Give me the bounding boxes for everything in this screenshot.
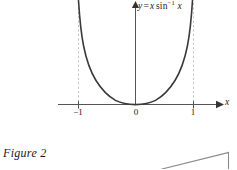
equation-function: sin — [154, 1, 167, 11]
equation-exponent: −1 — [168, 0, 175, 6]
figure-caption: Figure 2 — [3, 146, 47, 161]
tick-label-zero: 0 — [129, 107, 143, 117]
tick-label-one: 1 — [186, 107, 200, 117]
equation-equals: = — [142, 1, 150, 11]
figure-container: y=xsin−1 x −1 0 1 x Figure 2 — [0, 0, 237, 169]
plot-canvas — [0, 0, 237, 169]
tick-label-neg-one: −1 — [70, 107, 86, 117]
fragment-diagonal-line — [162, 153, 229, 170]
x-axis-label: x — [225, 97, 229, 107]
equation-label: y=xsin−1 x — [138, 1, 182, 11]
x-axis-arrowhead — [216, 101, 224, 108]
equation-argument: x — [178, 1, 182, 11]
